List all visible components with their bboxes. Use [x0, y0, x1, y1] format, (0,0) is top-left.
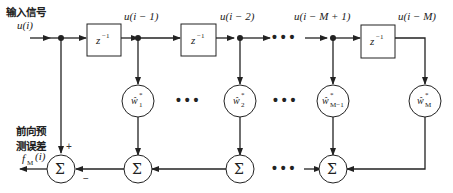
tap-label-2: u(i − 2) — [220, 10, 255, 23]
input-signal-label: u(i) — [17, 19, 33, 32]
delay-box-2: z −1 — [181, 24, 216, 56]
delay-box-3: z −1 — [361, 25, 395, 58]
svg-text:ŵ: ŵ — [417, 95, 424, 106]
ellipsis-mid-1: • • • — [176, 92, 199, 108]
svg-text:−1: −1 — [102, 32, 110, 40]
svg-text:Σ: Σ — [327, 161, 337, 177]
sum-m-1: Σ — [319, 155, 347, 183]
svg-text:*: * — [139, 91, 143, 99]
svg-text:M−1: M−1 — [330, 101, 344, 109]
svg-text:ŵ: ŵ — [322, 95, 329, 106]
tap-label-m-1: u(i − M + 1) — [294, 10, 351, 23]
svg-text:z: z — [369, 35, 375, 47]
svg-text:z: z — [95, 34, 101, 46]
sum-2: Σ — [226, 155, 254, 183]
output-signal-label: f M (i) — [22, 150, 46, 167]
prediction-error-filter-diagram: 输入信号 u(i) • • • z −1 z −1 z −1 u(i − 1) … — [0, 0, 453, 193]
svg-text:Σ: Σ — [55, 161, 65, 177]
tap-label-m: u(i − M) — [398, 10, 436, 23]
svg-text:2: 2 — [241, 101, 245, 109]
ellipsis-mid-2: • • • — [273, 92, 296, 108]
svg-text:ŵ: ŵ — [131, 95, 138, 106]
delay-box-1: z −1 — [87, 24, 121, 56]
svg-text:Σ: Σ — [234, 161, 244, 177]
svg-text:1: 1 — [139, 101, 143, 109]
svg-text:*: * — [330, 91, 334, 99]
svg-text:(i): (i) — [35, 150, 46, 163]
svg-text:M: M — [425, 101, 432, 109]
svg-text:*: * — [425, 91, 429, 99]
svg-text:M: M — [27, 159, 34, 167]
weight-m-1: ŵ M−1 * — [317, 85, 349, 117]
weight-m: ŵ M * — [409, 85, 441, 117]
input-label: 输入信号 — [6, 6, 46, 18]
tap-label-1: u(i − 1) — [124, 10, 159, 23]
minus-sign: − — [83, 173, 89, 184]
svg-text:−1: −1 — [197, 32, 205, 40]
svg-text:Σ: Σ — [132, 161, 142, 177]
plus-sign: + — [66, 141, 72, 152]
ellipsis-bottom: • • • — [272, 160, 295, 176]
weight-1: ŵ 1 * — [122, 85, 154, 117]
svg-text:ŵ: ŵ — [233, 95, 240, 106]
svg-text:z: z — [190, 34, 196, 46]
output-label-line1: 前向预 — [16, 125, 47, 137]
svg-text:−1: −1 — [376, 33, 384, 41]
ellipsis-top: • • • — [272, 29, 295, 45]
weight-2: ŵ 2 * — [224, 85, 256, 117]
sum-output: Σ — [47, 155, 75, 183]
svg-text:*: * — [241, 91, 245, 99]
sum-1: Σ — [124, 155, 152, 183]
